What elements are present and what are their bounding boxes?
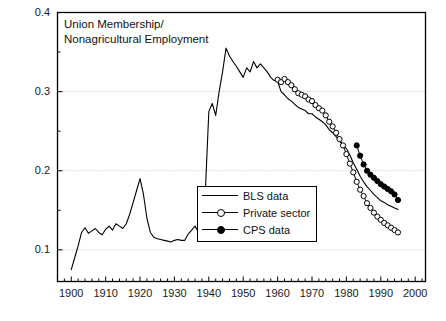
legend-label-private-sector: Private sector	[238, 207, 310, 219]
data-point	[361, 162, 366, 167]
data-point	[354, 143, 359, 148]
data-point	[330, 124, 335, 129]
data-point	[358, 187, 363, 192]
data-point	[361, 193, 366, 198]
y-axis-tick-label: 0.4	[14, 6, 50, 18]
data-point	[351, 170, 356, 175]
data-point	[327, 119, 332, 124]
x-axis-tick-label: 2000	[395, 287, 435, 299]
chart-title-line-1: Union Membership/	[64, 17, 208, 32]
data-point	[337, 136, 342, 141]
data-point	[392, 192, 397, 197]
data-point	[340, 143, 345, 148]
data-point	[368, 205, 373, 210]
y-axis-tick-label: 0.2	[14, 164, 50, 176]
legend-item-cps: CPS data	[198, 221, 316, 238]
legend-item-private-sector: Private sector	[198, 204, 316, 221]
data-point	[354, 179, 359, 184]
chart-legend: BLS data Private sector CPS data	[197, 186, 317, 242]
legend-symbol-line-icon	[202, 190, 238, 202]
legend-symbol-open-circle-icon	[202, 207, 238, 219]
legend-item-bls: BLS data	[198, 187, 316, 204]
data-point	[364, 201, 369, 206]
chart-container: Union Membership/ Nonagricultural Employ…	[0, 0, 446, 321]
chart-plot-area	[0, 0, 446, 321]
data-point	[395, 197, 400, 202]
legend-label-bls: BLS data	[238, 190, 288, 202]
y-axis-tick-label: 0.1	[14, 243, 50, 255]
data-point	[358, 153, 363, 158]
data-point	[323, 113, 328, 118]
y-axis-tick-label: 0.3	[14, 85, 50, 97]
data-point	[320, 108, 325, 113]
legend-symbol-filled-circle-icon	[202, 224, 238, 236]
chart-title-line-2: Nonagricultural Employment	[64, 32, 208, 47]
data-point	[344, 152, 349, 157]
data-point	[333, 130, 338, 135]
data-point	[347, 161, 352, 166]
data-point	[395, 230, 400, 235]
chart-title: Union Membership/ Nonagricultural Employ…	[64, 17, 208, 47]
legend-label-cps: CPS data	[238, 224, 290, 236]
